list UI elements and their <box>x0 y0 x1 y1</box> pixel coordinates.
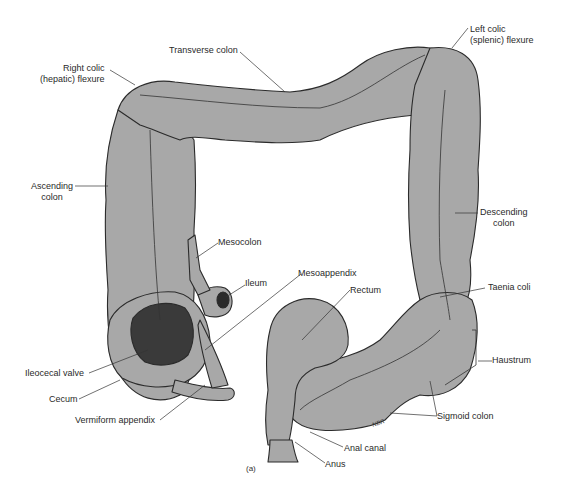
ileocecal-valve-shape <box>131 303 193 365</box>
label-left-colic-line1: Left colic <box>470 24 534 35</box>
label-vermiform-appendix: Vermiform appendix <box>75 415 155 426</box>
label-left-colic-flexure: Left colic (splenic) flexure <box>470 24 534 46</box>
label-taenia-coli: Taenia coli <box>488 282 531 293</box>
ileum-lumen <box>217 292 229 308</box>
mesoappendix-shape <box>198 320 228 388</box>
label-ascending-line2: colon <box>31 192 73 203</box>
label-mesocolon: Mesocolon <box>218 237 262 248</box>
label-anus: Anus <box>325 459 346 470</box>
label-descending-line2: colon <box>480 218 528 229</box>
colon-illustration <box>105 47 480 462</box>
label-cecum: Cecum <box>49 394 78 405</box>
label-ascending-colon: Ascending colon <box>31 181 73 203</box>
label-right-colic-flexure: Right colic (hepatic) flexure <box>40 63 105 85</box>
label-sigmoid-colon: Sigmoid colon <box>437 411 494 422</box>
anal-canal-shape <box>268 440 298 462</box>
label-descending-colon: Descending colon <box>480 207 528 229</box>
label-ileum: Ileum <box>245 278 267 289</box>
descending-colon-shape <box>409 47 481 305</box>
label-right-colic-line2: (hepatic) flexure <box>40 74 105 85</box>
label-ileocecal-valve: Ileocecal valve <box>25 368 84 379</box>
figure-caption: (a) <box>246 464 256 473</box>
label-transverse-colon: Transverse colon <box>169 45 238 56</box>
label-descending-line1: Descending <box>480 207 528 218</box>
label-haustrum: Haustrum <box>492 355 531 366</box>
label-ascending-line1: Ascending <box>31 181 73 192</box>
label-right-colic-line1: Right colic <box>40 63 105 74</box>
label-anal-canal: Anal canal <box>344 443 386 454</box>
label-left-colic-line2: (splenic) flexure <box>470 35 534 46</box>
label-rectum: Rectum <box>350 285 381 296</box>
label-mesoappendix: Mesoappendix <box>298 268 357 279</box>
